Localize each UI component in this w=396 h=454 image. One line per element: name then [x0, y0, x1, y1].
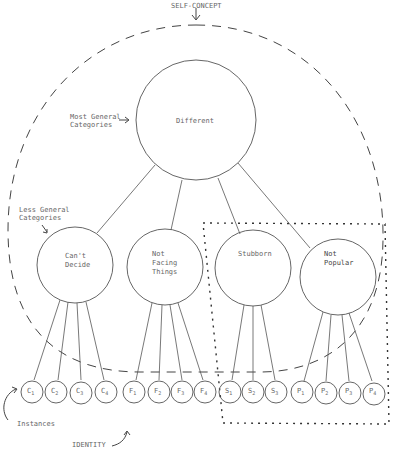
- instance-node-label: S1: [225, 387, 232, 398]
- instance-node-label: F4: [200, 387, 207, 398]
- category-label: Can'tDecide: [65, 252, 90, 270]
- self-concept-label: SELF-CONCEPT: [171, 2, 222, 11]
- category-label: NotFacingThings: [152, 250, 177, 277]
- diagram-canvas: [0, 0, 396, 454]
- less-general-label-2: Categories: [19, 214, 61, 223]
- instance-node-label: S3: [271, 387, 278, 398]
- self-concept-boundary: [8, 25, 383, 372]
- instance-node-label: P4: [369, 387, 376, 398]
- instance-node-label: F2: [154, 387, 161, 398]
- instance-node-label: F1: [129, 387, 136, 398]
- instance-node-label: F3: [177, 387, 184, 398]
- instance-node-label: C3: [76, 387, 83, 398]
- instance-node-label: C1: [27, 387, 34, 398]
- category-label: NotPopular: [324, 250, 354, 268]
- most-general-label-2: Categories: [70, 121, 112, 130]
- identity-label: IDENTITY: [72, 441, 106, 450]
- instance-node-label: S2: [248, 387, 255, 398]
- instance-node-label: C2: [51, 387, 58, 398]
- instance-node-label: C4: [101, 387, 108, 398]
- category-label: Stubborn: [238, 250, 272, 259]
- instance-node-label: P2: [321, 387, 328, 398]
- instances-label: Instances: [17, 420, 55, 429]
- instance-node-label: P1: [297, 387, 304, 398]
- instance-node-label: P3: [345, 387, 352, 398]
- root-label: Different: [176, 117, 214, 126]
